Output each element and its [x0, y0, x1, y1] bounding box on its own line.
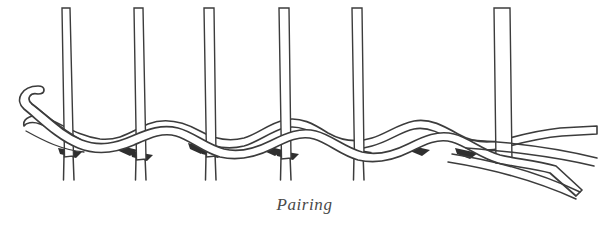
figure-pairing: Pairing — [0, 0, 609, 225]
figure-caption: Pairing — [0, 196, 609, 213]
pairing-weave-illustration — [0, 0, 609, 225]
stake-5 — [352, 8, 364, 157]
stake-3 — [204, 8, 216, 157]
stake-6 — [494, 8, 512, 163]
illustration-background — [0, 0, 609, 225]
